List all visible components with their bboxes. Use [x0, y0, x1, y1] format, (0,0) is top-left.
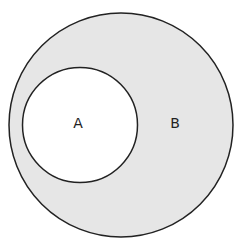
- set-a-label: A: [73, 115, 83, 131]
- set-b-label: B: [170, 115, 180, 131]
- venn-diagram: A B: [0, 0, 248, 251]
